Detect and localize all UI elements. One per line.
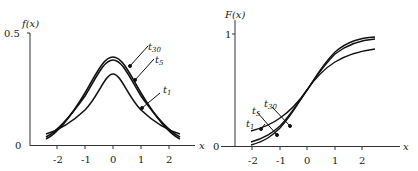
y-tick-label-zero: 0 [15,140,21,151]
curve-t1 [46,74,180,134]
y-axis-label: f(x) [21,18,39,29]
x-tick-label: 1 [332,155,338,166]
x-tick-label: -1 [81,154,91,165]
label-t5: t5 [252,105,261,118]
label-t5: t5 [155,54,164,67]
curve-t1 [251,49,375,131]
figure: f(x) 0.5 0 x -2 -1 0 1 2 t30 t5 t1 F(x [0,0,418,171]
x-tick-label: -2 [248,155,258,166]
x-tick-label: 0 [110,154,116,165]
y-axis-label: F(x) [224,9,245,20]
y-tick-label-top: 0.5 [4,28,20,39]
x-tick-label: 2 [359,155,365,166]
x-axis-label: x [403,141,409,152]
cdf-chart: F(x) 1 0 x -2 -1 0 1 2 t1 t5 t30 [213,9,409,166]
x-tick-label: 2 [166,154,172,165]
x-tick-label: 1 [138,154,144,165]
x-tick-label: -2 [53,154,63,165]
label-t30: t30 [264,98,277,111]
x-axis-label: x [199,140,205,151]
label-t30: t30 [148,41,161,54]
label-t1: t1 [163,84,172,97]
x-tick-label: -1 [276,155,286,166]
label-t1: t1 [246,118,255,131]
x-tick-label: 0 [304,155,310,166]
pdf-chart: f(x) 0.5 0 x -2 -1 0 1 2 t30 t5 t1 [4,18,205,165]
y-tick-label-zero: 0 [213,141,219,152]
curve-t30 [46,57,180,139]
y-tick-label-top: 1 [225,29,231,40]
